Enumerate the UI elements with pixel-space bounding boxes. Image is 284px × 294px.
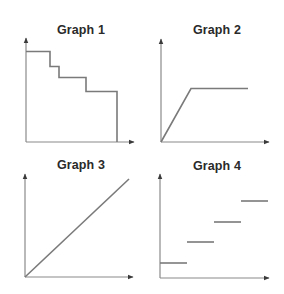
graph-2: [161, 39, 269, 142]
graph-1-step-line: [26, 52, 117, 143]
graph-2-ramp-plateau-line: [161, 89, 248, 143]
graph-4: [160, 174, 269, 278]
graph-4-title: Graph 4: [193, 159, 241, 173]
graph-1-title: Graph 1: [57, 23, 105, 37]
graph-2-title: Graph 2: [193, 23, 241, 37]
graph-3: [25, 174, 133, 277]
graph-1: [26, 38, 134, 142]
graphs-figure: [0, 0, 284, 294]
graph-3-linear-line: [25, 179, 129, 277]
graph-3-title: Graph 3: [57, 158, 105, 172]
